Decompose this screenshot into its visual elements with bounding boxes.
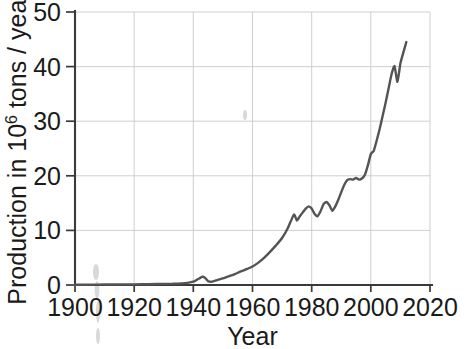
x-tick-labels: 1900 1920 1940 1960 1980 2000 2020 xyxy=(47,293,458,321)
svg-text:Production in 106 tons / year: Production in 106 tons / year xyxy=(3,0,31,305)
y-tick-label-10: 10 xyxy=(33,216,61,244)
y-tick-labels: 50 40 30 20 10 0 xyxy=(33,0,61,299)
x-tick-label-1940: 1940 xyxy=(165,293,221,321)
x-tick-label-1960: 1960 xyxy=(225,293,281,321)
x-tick-label-1920: 1920 xyxy=(106,293,162,321)
y-tick-label-40: 40 xyxy=(33,53,61,81)
y-axis-title-suffix: tons / year xyxy=(3,0,31,115)
data-line-production xyxy=(75,42,406,285)
x-tick-label-1980: 1980 xyxy=(284,293,340,321)
y-axis-title: Production in 106 tons / year xyxy=(3,0,31,305)
x-tick-label-1900: 1900 xyxy=(47,293,103,321)
chart-figure: 50 40 30 20 10 0 1900 1920 1940 1960 198… xyxy=(0,0,465,349)
x-axis-title: Year xyxy=(227,322,278,349)
x-tick-label-2000: 2000 xyxy=(343,293,399,321)
y-tick-label-50: 50 xyxy=(33,0,61,26)
production-line-chart: 50 40 30 20 10 0 1900 1920 1940 1960 198… xyxy=(0,0,465,349)
x-tick-label-2020: 2020 xyxy=(402,293,458,321)
y-tick-marks xyxy=(66,12,75,285)
y-tick-label-20: 20 xyxy=(33,162,61,190)
y-axis-title-prefix: Production in 10 xyxy=(3,124,31,305)
axis-spines xyxy=(75,11,432,285)
y-tick-label-30: 30 xyxy=(33,107,61,135)
y-axis-title-superscript: 6 xyxy=(3,115,20,124)
grid-lines xyxy=(75,12,430,285)
